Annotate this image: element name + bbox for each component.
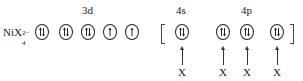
orbital-circle: [240, 24, 254, 40]
orbital-circle: [125, 24, 139, 40]
paired-electrons-icon: [60, 25, 72, 39]
orbital-circle: [35, 24, 49, 40]
single-electron-icon: [104, 25, 116, 39]
ligand-label: X: [273, 66, 281, 78]
paired-electrons-icon: [217, 25, 229, 39]
bracket-left: [161, 24, 165, 44]
orbital-circle: [216, 24, 230, 40]
donation-arrow-icon: [223, 49, 224, 65]
orbital-circle: [103, 24, 117, 40]
charge-superscript: 2−: [22, 30, 29, 37]
bracket-right: [290, 24, 294, 44]
donation-arrow-icon: [277, 49, 278, 65]
paired-electrons-icon: [176, 25, 188, 39]
orbital-group-label: 4s: [176, 5, 186, 16]
orbital-group-label: 3d: [82, 5, 93, 16]
donation-arrow-icon: [247, 49, 248, 65]
orbital-circle: [81, 24, 95, 40]
paired-electrons-icon: [241, 25, 253, 39]
orbital-group-label: 4p: [241, 5, 252, 16]
paired-electrons-icon: [271, 25, 283, 39]
single-electron-icon: [126, 25, 138, 39]
ligand-label: X: [178, 66, 186, 78]
orbital-circle: [59, 24, 73, 40]
orbital-circle: [270, 24, 284, 40]
ligand-label: X: [219, 66, 227, 78]
donation-arrow-icon: [182, 49, 183, 65]
ligand-label: X: [243, 66, 251, 78]
count-subscript: 4: [22, 40, 26, 47]
complex-label: NiX2−4: [3, 27, 30, 38]
paired-electrons-icon: [36, 25, 48, 39]
complex-base: NiX: [3, 26, 22, 38]
paired-electrons-icon: [82, 25, 94, 39]
orbital-circle: [175, 24, 189, 40]
